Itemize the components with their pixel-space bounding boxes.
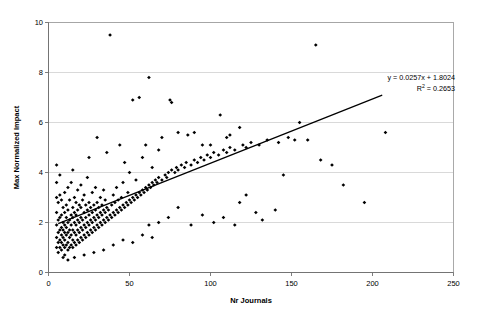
- scatter-chart: 0246810050100150200250Nr JournalsMax Nor…: [0, 0, 480, 317]
- y-axis-title: Max Normalized Impact: [12, 105, 21, 189]
- x-tick-label-50: 50: [125, 279, 133, 288]
- x-tick-label-200: 200: [366, 279, 379, 288]
- x-tick-label-250: 250: [447, 279, 460, 288]
- plot-canvas: 0246810050100150200250Nr JournalsMax Nor…: [0, 0, 480, 317]
- y-tick-label-10: 10: [35, 18, 43, 27]
- y-tick-label-8: 8: [39, 68, 43, 77]
- trendline-equation-label: y = 0.0257x + 1.8024: [387, 73, 455, 82]
- x-tick-label-100: 100: [204, 279, 217, 288]
- x-axis-title: Nr Journals: [230, 296, 272, 305]
- y-tick-label-0: 0: [39, 268, 43, 277]
- y-tick-label-2: 2: [39, 218, 43, 227]
- y-tick-label-6: 6: [39, 118, 43, 127]
- x-tick-label-0: 0: [46, 279, 50, 288]
- y-tick-label-4: 4: [39, 168, 43, 177]
- x-tick-label-150: 150: [285, 279, 298, 288]
